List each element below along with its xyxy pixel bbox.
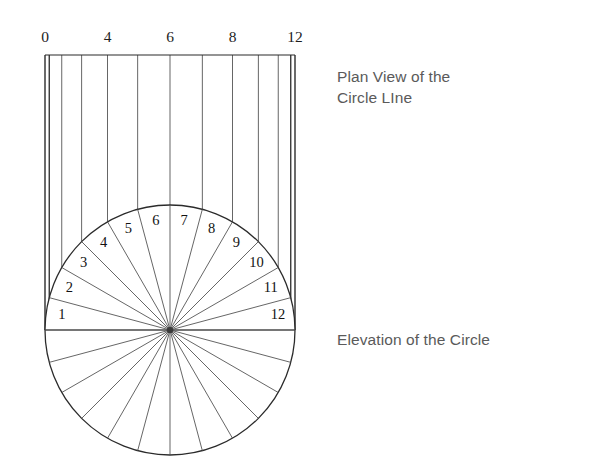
sector-number-label: 2 xyxy=(66,279,73,295)
sector-number-label: 10 xyxy=(249,254,264,270)
circle-radial-spokes xyxy=(45,205,295,455)
sector-number-label: 4 xyxy=(100,234,108,250)
sector-number-label: 7 xyxy=(181,212,188,228)
sector-number-label: 1 xyxy=(58,306,65,322)
sector-number-label: 9 xyxy=(233,234,240,250)
scale-tick-label: 12 xyxy=(287,28,303,45)
sector-number-label: 6 xyxy=(152,212,159,228)
sector-number-label: 8 xyxy=(208,220,215,236)
scale-tick-label: 8 xyxy=(229,28,237,45)
sector-number-label: 5 xyxy=(125,220,132,236)
sector-number-label: 3 xyxy=(80,254,87,270)
sector-number-label: 11 xyxy=(264,279,278,295)
scale-tick-label: 6 xyxy=(166,28,174,45)
plan-scale-labels: 046812 xyxy=(41,28,303,45)
caption-elevation: Elevation of the Circle xyxy=(337,329,577,350)
sector-number-label: 12 xyxy=(271,306,286,322)
figure-root: 046812 123456789101112 Plan View of the … xyxy=(0,0,595,469)
scale-tick-label: 0 xyxy=(41,28,49,45)
scale-tick-label: 4 xyxy=(104,28,112,45)
caption-plan-view: Plan View of the Circle LIne xyxy=(337,66,577,108)
circle-center-hub xyxy=(167,327,173,333)
